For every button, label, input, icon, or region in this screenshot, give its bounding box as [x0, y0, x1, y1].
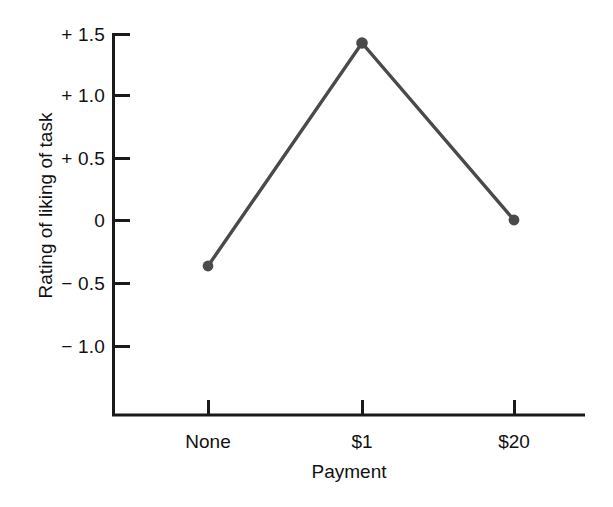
x-tick-label-dollar20: $20 [498, 432, 530, 451]
x-tick-label-none: None [185, 432, 230, 451]
x-axis-title: Payment [113, 462, 585, 482]
y-axis-title-text: Rating of liking of task [36, 113, 56, 299]
y-axis-title-host: Rating of liking of task [26, 0, 66, 459]
y-axis-title: Rating of liking of task [26, 0, 66, 459]
chart-figure: + 1.5 + 1.0 + 0.5 0 − 0.5 − 1.0 None $1 … [0, 0, 613, 507]
x-axis-tick-labels: None $1 $20 [0, 0, 613, 507]
x-tick-label-dollar1: $1 [351, 432, 372, 451]
